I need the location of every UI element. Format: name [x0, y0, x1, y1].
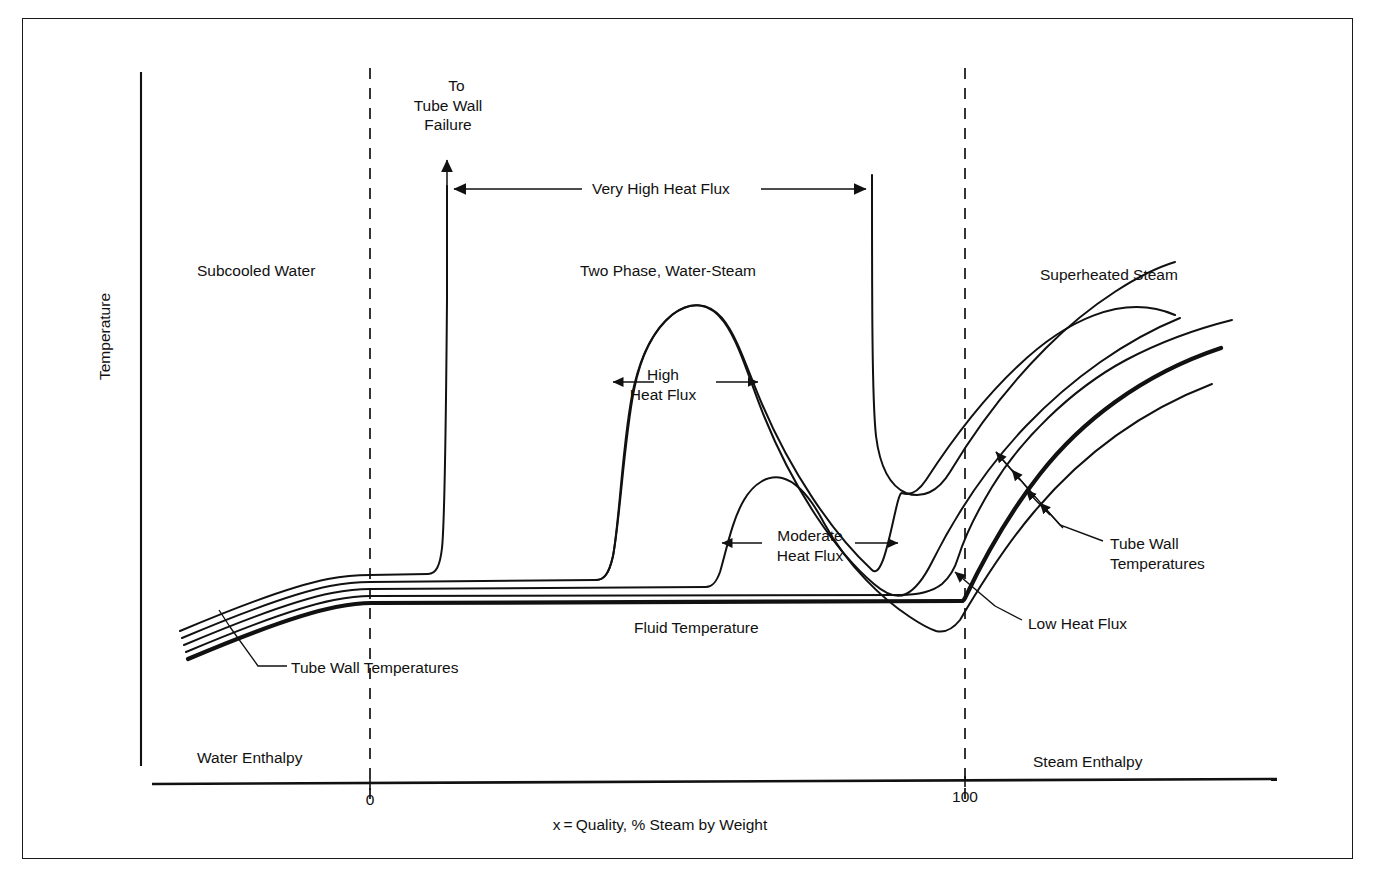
label-tube-wall-temperatures-left: Tube Wall Temperatures — [291, 658, 458, 678]
tube-wall-right-arrow-3 — [1026, 490, 1050, 515]
label-water-enthalpy: Water Enthalpy — [197, 748, 302, 768]
label-region-superheated-steam: Superheated Steam — [1040, 265, 1178, 285]
y-axis-title: Temperature — [96, 293, 114, 380]
x-axis-title: x = Quality, % Steam by Weight — [490, 815, 830, 835]
x-tick-label-100: 100 — [942, 787, 988, 807]
low-heat-flux-leader — [995, 606, 1022, 620]
x-tick-label-0: 0 — [350, 790, 390, 810]
curve-high-heat-flux-main — [596, 305, 1180, 596]
label-region-subcooled-water: Subcooled Water — [197, 261, 315, 281]
curve-very-high-heat-flux-descent — [872, 175, 1175, 495]
label-high-heat-flux: High Heat Flux — [613, 365, 713, 405]
curve-very-high-heat-flux-riser — [180, 186, 447, 631]
tube-wall-right-arrow-4 — [1040, 503, 1063, 528]
label-very-high-heat-flux: Very High Heat Flux — [592, 179, 730, 199]
label-low-heat-flux: Low Heat Flux — [1028, 614, 1127, 634]
label-steam-enthalpy: Steam Enthalpy — [1033, 752, 1142, 772]
label-tube-wall-failure: To Tube Wall Failure — [398, 56, 498, 155]
figure-canvas: To Tube Wall Failure Very High Heat Flux… — [0, 0, 1375, 877]
diagram-svg — [0, 0, 1375, 877]
label-moderate-heat-flux: Moderate Heat Flux — [760, 526, 860, 566]
label-fluid-temperature: Fluid Temperature — [634, 618, 759, 638]
x-axis-line — [152, 779, 1277, 784]
label-region-two-phase: Two Phase, Water-Steam — [580, 261, 756, 281]
label-tube-wall-temperatures-right: Tube Wall Temperatures — [1110, 534, 1205, 574]
